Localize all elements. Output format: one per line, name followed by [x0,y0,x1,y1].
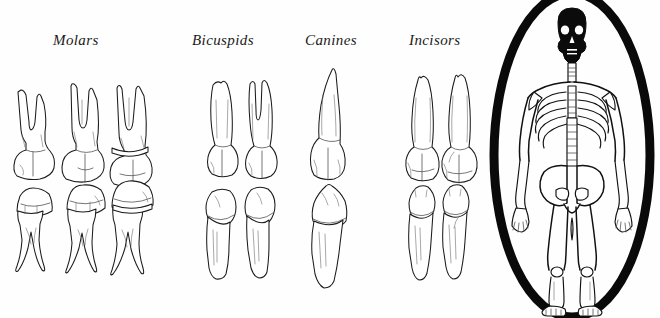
cervical-spine [568,63,576,82]
left-leg [548,205,568,308]
pelvis [540,166,604,213]
tooth-upper-canine-1 [310,69,345,180]
tooth-upper-molar-2 [62,84,104,182]
illustration-canvas: Molars Bicuspids Canines Incisors [0,0,660,318]
tooth-upper-molar-1 [14,90,55,180]
left-arm [512,98,538,232]
skull [558,8,586,63]
right-arm [606,98,632,232]
tooth-lower-molar-2 [66,185,105,273]
tooth-lower-bicuspid-2 [245,187,275,278]
tooth-upper-bicuspid-2 [246,81,278,179]
tooth-lower-incisor-2 [443,185,469,279]
tooth-lower-bicuspid-1 [206,189,236,279]
tooth-upper-incisor-2 [442,75,477,183]
right-leg [576,205,596,308]
skeleton-inset [482,0,660,318]
tooth-upper-bicuspid-1 [208,81,239,177]
tooth-upper-incisor-1 [406,76,439,181]
skeleton-figure [512,8,632,316]
tooth-lower-molar-1 [16,188,52,271]
tooth-lower-molar-3 [111,181,153,275]
spine [567,118,577,166]
tooth-lower-canine-1 [312,185,347,289]
tooth-upper-molar-3 [110,85,152,187]
tooth-lower-incisor-1 [409,186,435,280]
